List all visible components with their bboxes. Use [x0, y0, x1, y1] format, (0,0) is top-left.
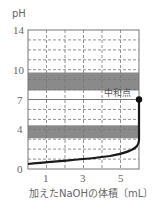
- equivalence-point-label: 中和点: [104, 87, 131, 98]
- x-tick-3: 3: [80, 172, 86, 184]
- x-axis-label: 加えたNaOHの体積〔mL〕: [29, 187, 153, 199]
- y-tick-4: 4: [17, 123, 23, 135]
- y-axis-label: pH: [12, 8, 26, 19]
- titration-chart: 中和点 pH 14 10 7 4 0 1 3 5 加えたNaOHの体積〔mL〕: [0, 0, 156, 213]
- y-tick-7: 7: [17, 94, 23, 106]
- x-tick-5: 5: [118, 172, 124, 184]
- equivalence-point-marker: [136, 96, 142, 102]
- y-tick-0: 0: [17, 163, 23, 175]
- y-tick-14: 14: [13, 24, 25, 36]
- y-tick-10: 10: [13, 64, 25, 76]
- x-tick-1: 1: [43, 172, 49, 184]
